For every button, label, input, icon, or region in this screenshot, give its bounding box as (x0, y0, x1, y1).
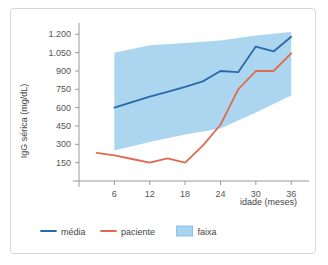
chart-plot-area: 1503004506007509001.0501.20061218243036 … (11, 9, 317, 255)
y-tick-label: 300 (56, 139, 71, 149)
x-axis-title: idade (meses) (240, 197, 297, 207)
legend-label-faixa: faixa (198, 227, 217, 237)
y-tick-label: 1.050 (48, 48, 71, 58)
chart-card: 1503004506007509001.0501.20061218243036 … (10, 8, 316, 254)
legend-label-média: média (61, 227, 86, 237)
x-tick-label: 24 (215, 189, 225, 199)
legend-swatch-faixa (177, 226, 193, 236)
y-tick-label: 600 (56, 103, 71, 113)
chart-legend: médiapacientefaixa (41, 226, 217, 237)
y-tick-label: 1.200 (48, 29, 71, 39)
y-tick-label: 150 (56, 158, 71, 168)
x-tick-label: 12 (145, 189, 155, 199)
igg-serum-line-chart: 1503004506007509001.0501.20061218243036 … (11, 9, 317, 255)
y-axis-title: IgG sérica (mg/dL) (19, 84, 29, 159)
x-tick-label: 18 (180, 189, 190, 199)
y-tick-label: 900 (56, 66, 71, 76)
y-tick-label: 450 (56, 121, 71, 131)
legend-label-paciente: paciente (121, 227, 155, 237)
y-tick-label: 750 (56, 84, 71, 94)
x-tick-label: 6 (112, 189, 117, 199)
